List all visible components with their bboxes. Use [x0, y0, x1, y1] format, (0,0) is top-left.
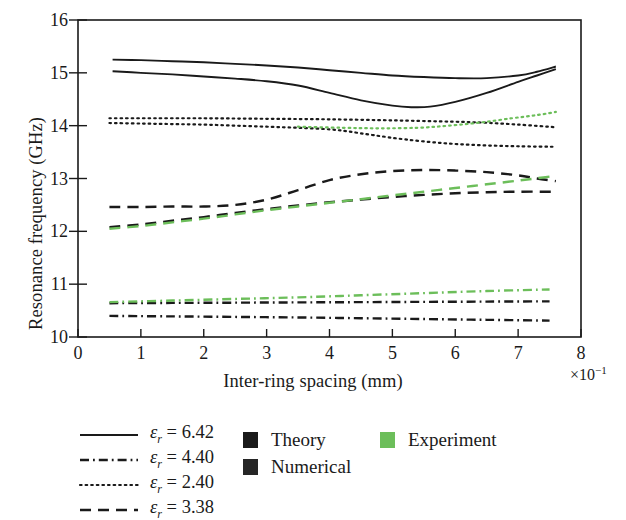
legend-color-swatch — [380, 432, 395, 448]
series-line — [109, 316, 549, 321]
y-axis-label: Resonance frequency (GHz) — [26, 117, 47, 330]
legend-line-styles: εr = 6.42εr = 4.40εr = 2.40εr = 3.38 — [78, 422, 214, 520]
legend-line-sample — [78, 451, 140, 469]
figure-container: 16151413121110 012345678 Resonance frequ… — [0, 0, 626, 520]
x-tick-label: 0 — [74, 343, 83, 364]
legend-item-label: εr = 4.40 — [150, 447, 214, 472]
legend-line-sample — [78, 426, 140, 444]
legend-item-label: εr = 3.38 — [150, 497, 214, 520]
x-axis-label: Inter-ring spacing (mm) — [0, 371, 626, 392]
x-tick-label: 1 — [136, 343, 145, 364]
resonance-frequency-chart — [0, 0, 626, 400]
x-multiplier-base: ×10 — [570, 366, 595, 383]
x-tick-label: 5 — [388, 343, 397, 364]
legend-item[interactable]: εr = 3.38 — [78, 497, 214, 520]
legend-color-swatch — [243, 459, 258, 475]
legend-swatch-label: Numerical — [271, 456, 351, 478]
series-line — [109, 289, 549, 302]
x-axis-multiplier: ×10−1 — [570, 364, 607, 384]
x-tick-label: 7 — [514, 343, 523, 364]
series-line — [109, 118, 555, 127]
x-multiplier-exponent: −1 — [595, 364, 607, 376]
x-tick-label: 4 — [325, 343, 334, 364]
legend-swatch-item[interactable]: Theory — [243, 426, 351, 453]
legend-swatches-column-2: Experiment — [380, 426, 497, 453]
legend-item[interactable]: εr = 2.40 — [78, 472, 214, 497]
series-line — [109, 301, 549, 303]
legend-item-label: εr = 2.40 — [150, 472, 214, 497]
legend-line-sample — [78, 501, 140, 519]
legend-swatch-label: Experiment — [408, 429, 497, 451]
chart-legend: εr = 6.42εr = 4.40εr = 2.40εr = 3.38 The… — [0, 400, 626, 520]
series-line — [109, 176, 555, 229]
legend-swatch-item[interactable]: Numerical — [243, 453, 351, 480]
x-tick-label: 3 — [262, 343, 271, 364]
legend-item[interactable]: εr = 4.40 — [78, 447, 214, 472]
y-tick-label: 16 — [28, 10, 68, 31]
x-tick-label: 6 — [451, 343, 460, 364]
series-line — [113, 69, 556, 107]
legend-item-label: εr = 6.42 — [150, 422, 214, 447]
legend-color-swatch — [243, 432, 258, 448]
legend-line-sample — [78, 476, 140, 494]
legend-swatch-label: Theory — [271, 429, 326, 451]
x-tick-label: 2 — [199, 343, 208, 364]
legend-item[interactable]: εr = 6.42 — [78, 422, 214, 447]
plot-area: 16151413121110 012345678 Resonance frequ… — [0, 0, 626, 400]
y-tick-label: 15 — [28, 62, 68, 83]
legend-swatch-item[interactable]: Experiment — [380, 426, 497, 453]
series-line — [298, 112, 556, 128]
series-line — [109, 192, 555, 227]
x-tick-label: 8 — [577, 343, 586, 364]
legend-swatches-column-1: TheoryNumerical — [243, 426, 351, 480]
